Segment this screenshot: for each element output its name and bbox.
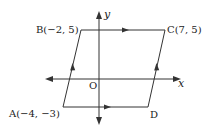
y-axis-label: y	[103, 8, 111, 21]
edge-bc-arrow-icon	[122, 28, 129, 33]
y-axis-bottom-arrow-icon	[96, 117, 102, 125]
origin-label: O	[89, 80, 97, 91]
y-axis-top-arrow-icon	[96, 11, 102, 19]
x-axis-label: x	[178, 77, 185, 90]
edge-ad-arrow-icon	[104, 105, 111, 110]
vertex-a-label: A(−4, −3)	[8, 108, 60, 119]
vertex-d-label: D	[150, 109, 158, 120]
parallelogram-diagram: y x O B(−2, 5) C(7, 5) A(−4, −3) D	[0, 0, 205, 132]
x-axis-left-arrow-icon	[45, 76, 53, 82]
edge-ab-arrow-icon	[70, 63, 75, 71]
parallel-marks	[70, 28, 159, 110]
y-axis	[96, 11, 102, 125]
parallelogram-abcd	[63, 30, 165, 107]
x-axis	[45, 76, 181, 82]
vertex-c-label: C(7, 5)	[167, 24, 202, 35]
edge-dc-arrow-icon	[154, 63, 159, 71]
vertex-b-label: B(−2, 5)	[36, 24, 79, 35]
